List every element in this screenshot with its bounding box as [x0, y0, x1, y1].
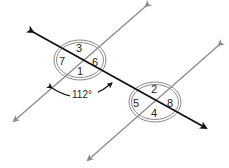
- angle-label-8: 8: [167, 97, 173, 109]
- parallel-line-2: [88, 45, 219, 160]
- diagram-canvas: 3 7 6 1 2 5 8 4 112°: [0, 0, 229, 168]
- parallel-line-1: [14, 6, 146, 121]
- angle-label-3: 3: [76, 42, 82, 54]
- parallel-lines-diagram: 3 7 6 1 2 5 8 4 112°: [0, 0, 229, 168]
- angle-label-7: 7: [59, 55, 65, 67]
- angle-label-6: 6: [92, 56, 98, 68]
- angle-measure-label: 112°: [72, 89, 92, 100]
- angle-label-2: 2: [151, 83, 157, 95]
- angle-label-1: 1: [77, 65, 83, 77]
- angle-label-4: 4: [151, 107, 157, 119]
- angle-label-5: 5: [133, 97, 139, 109]
